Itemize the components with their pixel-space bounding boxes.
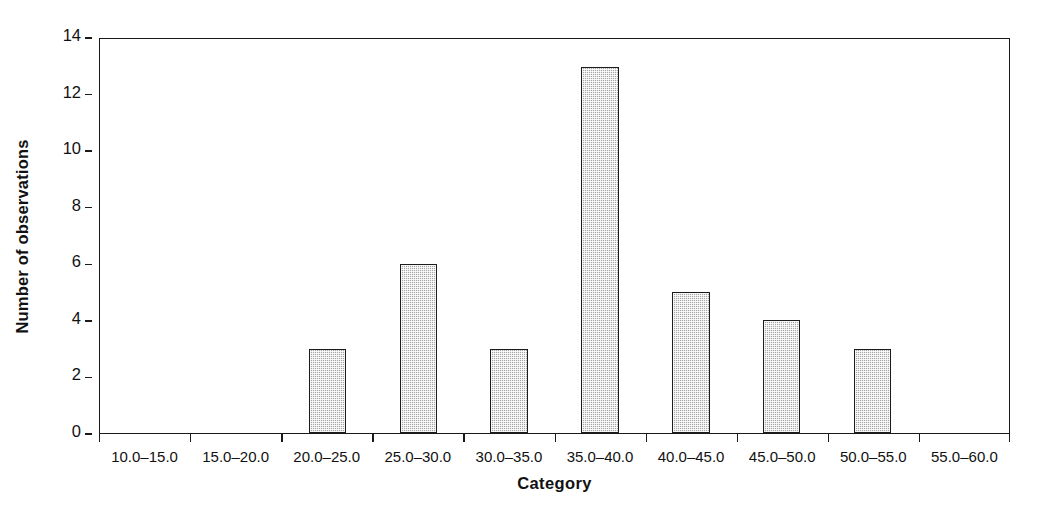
x-axis-tick-label: 50.0–55.0	[828, 446, 919, 468]
y-axis-tick-label: 12	[63, 84, 81, 101]
x-axis-tick-mark	[463, 434, 464, 442]
x-axis-tick-label: 15.0–20.0	[190, 446, 281, 468]
bar-category-column	[827, 39, 918, 433]
x-axis-tick-label: 10.0–15.0	[99, 446, 190, 468]
x-axis-ticks	[99, 434, 1010, 442]
y-axis-tick-mark	[85, 377, 92, 378]
y-axis-tick-label: 4	[72, 310, 81, 327]
y-axis-tick-mark	[85, 433, 92, 434]
bar-category-column	[191, 39, 282, 433]
bar	[854, 349, 891, 433]
bar-category-column	[100, 39, 191, 433]
x-axis-tick-mark	[555, 434, 556, 442]
x-axis-tick-label: 40.0–45.0	[646, 446, 737, 468]
y-axis-tick-mark	[85, 264, 92, 265]
x-axis-tick-mark	[372, 434, 373, 442]
x-axis-tick-mark	[646, 434, 647, 442]
x-axis-tick-label: 25.0–30.0	[372, 446, 463, 468]
x-axis-tick-mark	[281, 434, 282, 442]
bar-category-column	[918, 39, 1009, 433]
y-axis-tick-label: 6	[72, 253, 81, 270]
x-axis-tick-label: 55.0–60.0	[919, 446, 1010, 468]
y-axis-tick-mark	[85, 207, 92, 208]
x-axis-tick-mark	[1009, 434, 1010, 442]
y-axis-tick-label: 10	[63, 140, 81, 157]
y-axis-tick-label: 8	[72, 197, 81, 214]
bar	[763, 320, 800, 433]
x-axis-tick-mark	[99, 434, 100, 442]
x-axis-title: Category	[99, 474, 1010, 493]
x-axis-tick-mark	[919, 434, 920, 442]
x-axis-tick-mark	[828, 434, 829, 442]
y-axis-tick-mark	[85, 94, 92, 95]
bar-category-column	[645, 39, 736, 433]
y-axis-tick-mark	[85, 320, 92, 321]
x-axis-tick-label: 20.0–25.0	[281, 446, 372, 468]
x-axis-tick-label: 35.0–40.0	[554, 446, 645, 468]
y-axis-title-label: Number of observations	[13, 139, 32, 333]
y-axis-tick-mark	[85, 150, 92, 151]
bar	[400, 264, 437, 433]
y-axis-tick-label: 2	[72, 366, 81, 383]
x-axis-tick-label: 30.0–35.0	[463, 446, 554, 468]
bar-category-column	[555, 39, 646, 433]
bar-category-column	[282, 39, 373, 433]
y-axis-title: Number of observations	[0, 0, 44, 472]
bar	[490, 349, 527, 433]
bar-category-column	[373, 39, 464, 433]
x-axis-tick-labels: 10.0–15.015.0–20.020.0–25.025.0–30.030.0…	[99, 446, 1010, 468]
bar	[309, 349, 346, 433]
bar-category-column	[464, 39, 555, 433]
bar-category-column	[736, 39, 827, 433]
bar-series	[100, 39, 1009, 433]
y-axis-tick-label: 0	[72, 423, 81, 440]
bar	[581, 67, 618, 433]
y-axis-tick-label: 14	[63, 27, 81, 44]
x-axis-tick-mark	[190, 434, 191, 442]
bar	[672, 292, 709, 433]
y-axis-tick-mark	[85, 37, 92, 38]
histogram-figure: Number of observations 02468101214 10.0–…	[0, 0, 1041, 524]
x-axis-tick-label: 45.0–50.0	[737, 446, 828, 468]
x-axis-tick-mark	[737, 434, 738, 442]
